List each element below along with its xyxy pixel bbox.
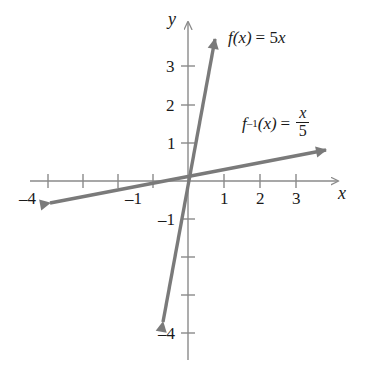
y-tick-label-1: 1 <box>167 135 176 152</box>
function-label-f: f(x)= 5x <box>228 29 286 46</box>
coordinate-plane <box>0 0 366 374</box>
graph-figure: y x –4 –1 1 2 3 3 2 1 –1 –4 f(x)= 5x f–1… <box>0 0 366 374</box>
f-equals: = 5 <box>256 28 278 47</box>
y-tick-label-neg1: –1 <box>158 211 175 228</box>
f-var: x <box>278 28 286 47</box>
finv-denominator: 5 <box>297 123 309 140</box>
x-tick-label-neg4: –4 <box>19 190 36 207</box>
x-tick-label-3: 3 <box>292 190 301 207</box>
finv-exponent: –1 <box>247 118 258 129</box>
finv-numerator: x <box>297 105 308 122</box>
finv-equals: = <box>281 115 291 132</box>
f-arg: (x) <box>233 28 252 47</box>
finv-arg: (x) <box>258 115 277 132</box>
y-axis-label: y <box>168 10 176 28</box>
function-label-f-inverse: f–1(x)=x5 <box>242 106 309 141</box>
y-tick-label-neg4: –4 <box>158 325 175 342</box>
x-tick-label-2: 2 <box>256 190 265 207</box>
y-tick-label-3: 3 <box>166 58 175 75</box>
x-tick-label-1: 1 <box>220 190 229 207</box>
finv-fraction: x5 <box>296 105 309 140</box>
x-axis-label: x <box>338 184 346 202</box>
x-tick-label-neg1: –1 <box>125 190 142 207</box>
y-tick-label-2: 2 <box>166 97 175 114</box>
